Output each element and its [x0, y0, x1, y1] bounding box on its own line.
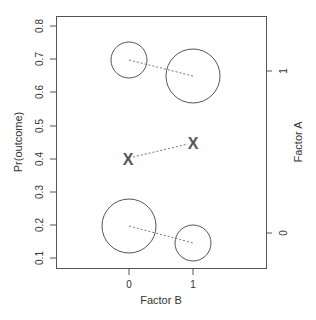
y-tick-label: 0.6 — [34, 85, 45, 99]
y-axis: 0.1 0.2 0.3 0.4 0.5 0.6 0.7 0.8 — [34, 19, 56, 265]
y2-tick-label: 0 — [278, 230, 289, 236]
y-tick-label: 0.2 — [34, 218, 45, 232]
series-factor-a-0 — [102, 199, 211, 261]
x-tick-label: 1 — [190, 279, 196, 290]
y-axis-label: Pr(outcome) — [12, 112, 24, 173]
plot-area — [57, 17, 267, 269]
x-tick-label: 0 — [126, 279, 132, 290]
y-tick-label: 0.5 — [34, 119, 45, 133]
y2-tick-label: 1 — [278, 68, 289, 74]
y-tick-label: 0.4 — [34, 152, 45, 166]
y2-axis-label: Factor A — [292, 121, 304, 163]
y2-axis: 1 0 — [266, 68, 289, 236]
chart: 0.1 0.2 0.3 0.4 0.5 0.6 0.7 0.8 Pr(outco… — [0, 0, 316, 320]
y-tick-label: 0.8 — [34, 19, 45, 33]
x-marker-icon: X — [123, 151, 134, 168]
x-marker-icon: X — [188, 135, 199, 152]
y-tick-label: 0.1 — [34, 251, 45, 265]
series-factor-a-1 — [111, 42, 220, 103]
series-marginal: X X — [123, 135, 199, 168]
x-axis-label: Factor B — [140, 294, 182, 306]
x-axis: 0 1 — [126, 269, 196, 290]
y-tick-label: 0.3 — [34, 185, 45, 199]
y-tick-label: 0.7 — [34, 52, 45, 66]
